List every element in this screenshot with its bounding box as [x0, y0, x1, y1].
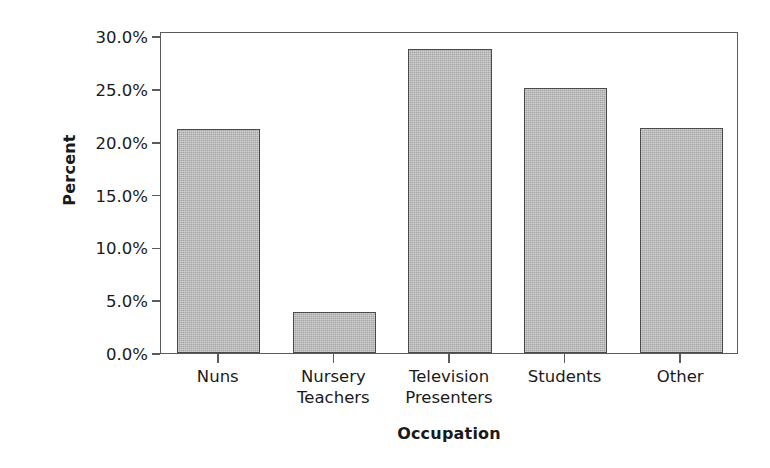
- y-axis-tick-label: 20.0%: [36, 133, 148, 152]
- y-axis-tick-mark: [152, 300, 160, 302]
- y-axis-tick-mark: [152, 36, 160, 38]
- plot-area: [160, 32, 738, 354]
- y-axis-tick-labels: 0.0%5.0%10.0%15.0%20.0%25.0%30.0%: [36, 0, 148, 468]
- bar: [640, 128, 723, 353]
- y-axis-tick-mark: [152, 89, 160, 91]
- y-axis-tick-label: 25.0%: [36, 81, 148, 100]
- y-axis-tick-label: 5.0%: [36, 292, 148, 311]
- x-axis-tick-mark: [217, 354, 219, 363]
- bar: [524, 88, 607, 353]
- y-axis-tick-label: 10.0%: [36, 239, 148, 258]
- y-axis-tick-label: 30.0%: [36, 28, 148, 47]
- x-axis-tick-mark: [448, 354, 450, 363]
- y-axis-tick-mark: [152, 142, 160, 144]
- y-axis-tick-label: 15.0%: [36, 186, 148, 205]
- x-axis-tick-label: Other: [605, 366, 755, 387]
- y-axis-tick-label: 0.0%: [36, 345, 148, 364]
- x-axis-tick-mark: [564, 354, 566, 363]
- x-axis-title: Occupation: [160, 424, 738, 443]
- x-axis-tick-mark: [333, 354, 335, 363]
- x-axis-tick-mark: [679, 354, 681, 363]
- y-axis-tick-mark: [152, 195, 160, 197]
- bar: [177, 129, 260, 353]
- bar-chart-figure: Percent 0.0%5.0%10.0%15.0%20.0%25.0%30.0…: [0, 0, 770, 468]
- bar: [293, 312, 376, 353]
- bar: [408, 49, 491, 353]
- y-axis-tick-mark: [152, 248, 160, 250]
- y-axis-tick-mark: [152, 353, 160, 355]
